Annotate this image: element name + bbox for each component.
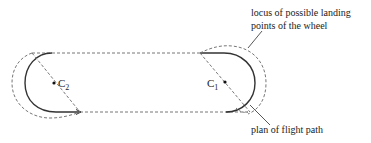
left-locus-dashed-circle (12, 53, 80, 118)
left-radius-dashed (32, 53, 80, 112)
c1-label: C1 (207, 77, 218, 92)
locus-label-line2: points of the wheel (251, 20, 328, 31)
c2-label: C2 (58, 77, 69, 92)
flight-path-leader-line (250, 105, 270, 125)
locus-label-line1: locus of possible landing (251, 7, 351, 18)
flight-path-diagram: C2 C1 locus of possible landing points o… (0, 0, 371, 143)
locus-leader-line (248, 31, 262, 48)
flight-path-label: plan of flight path (251, 124, 323, 135)
c1-center-dot (223, 80, 226, 83)
c2-center-dot (52, 81, 55, 84)
